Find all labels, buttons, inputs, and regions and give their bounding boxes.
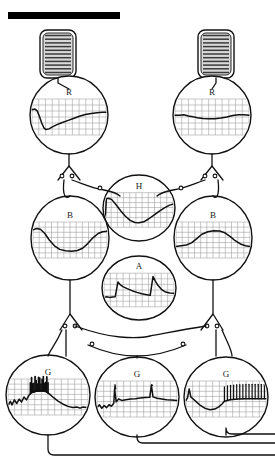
- wire-r-left-to-b-left: [63, 180, 70, 197]
- trace-g-middle-spike: [151, 385, 152, 386]
- neuron-b-right: B: [174, 196, 252, 280]
- neuron-b-left: B: [31, 196, 109, 280]
- wire-to-g-left: [48, 330, 62, 356]
- neuron-g-middle: G: [95, 357, 179, 437]
- neuron-h: H: [103, 175, 175, 241]
- synaptic-terminal: [63, 324, 67, 328]
- wire-to-g-right: [222, 330, 232, 356]
- synaptic-terminal: [215, 324, 219, 328]
- synaptic-terminal: [60, 174, 64, 178]
- neuron-g-middle-label: G: [134, 369, 141, 379]
- scale-bar: [8, 12, 120, 19]
- neuron-g-left-label: G: [45, 367, 52, 377]
- wire-b-crossbar-lower: [88, 345, 186, 356]
- neuron-b-left-label: B: [67, 210, 73, 220]
- synaptic-terminal-h-right: [179, 186, 183, 190]
- neuron-a-label: A: [136, 261, 143, 271]
- neuron-r-left: R: [30, 76, 108, 154]
- wire-r-right-to-b-right: [213, 180, 219, 197]
- neuron-r-right: R: [173, 76, 251, 154]
- neuron-g-left: G: [6, 355, 90, 435]
- output-line-g-left: [48, 435, 275, 455]
- wire-b-crossbar-upper: [75, 326, 206, 338]
- neuron-b-right-label: B: [210, 210, 216, 220]
- figure-root: RRHBBAGGG: [0, 0, 275, 468]
- neuron-a: A: [102, 256, 176, 320]
- stretch-receptor-left: [40, 30, 76, 78]
- synaptic-terminal-lower-right: [181, 342, 185, 346]
- neuron-g-right-label: G: [223, 369, 230, 379]
- synaptic-terminal-lower-left: [90, 342, 94, 346]
- circuit-diagram: RRHBBAGGG: [0, 0, 275, 468]
- synaptic-terminal: [70, 174, 74, 178]
- stretch-receptor-right: [198, 30, 234, 78]
- synaptic-terminal: [203, 174, 207, 178]
- synaptic-terminal: [213, 174, 217, 178]
- neuron-g-right: G: [184, 357, 268, 437]
- synaptic-terminal-h-left: [98, 186, 102, 190]
- output-line-g-middle: [137, 435, 275, 443]
- neuron-h-label: H: [136, 181, 143, 191]
- synapse-chevron-b-right: [201, 314, 223, 330]
- trace-g-middle-spike: [115, 385, 116, 389]
